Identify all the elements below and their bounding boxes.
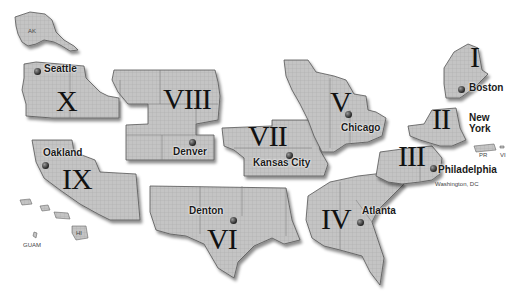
alaska-label: AK	[28, 28, 36, 34]
oakland-marker-icon[interactable]	[42, 162, 49, 169]
alaska-shape[interactable]	[15, 12, 78, 51]
boston-marker-icon[interactable]	[458, 86, 465, 93]
city-label-new-york[interactable]: New York	[469, 113, 491, 134]
seattle-marker-icon[interactable]	[34, 68, 41, 75]
city-label-denver[interactable]: Denver	[173, 147, 207, 158]
virgin-islands-shape[interactable]	[500, 146, 504, 148]
region-numeral-vii: VII	[248, 121, 287, 151]
atlanta-marker-icon[interactable]	[357, 219, 364, 226]
city-label-seattle[interactable]: Seattle	[44, 64, 77, 75]
city-label-denton[interactable]: Denton	[189, 206, 223, 217]
city-label-philadelphia[interactable]: Philadelphia	[438, 165, 497, 176]
region-numeral-vi: VI	[207, 224, 237, 254]
washington-dc-label: Washington, DC	[435, 181, 478, 187]
region-numeral-viii: VIII	[163, 84, 211, 114]
region-numeral-x: X	[56, 86, 77, 116]
region-numeral-ii: II	[432, 104, 450, 134]
hawaii-label: HI	[76, 230, 82, 236]
city-label-chicago[interactable]: Chicago	[341, 123, 380, 134]
city-label-atlanta[interactable]: Atlanta	[362, 206, 396, 217]
new-york-line-2: York	[469, 123, 491, 134]
region-numeral-iv: IV	[321, 204, 351, 234]
guam-label: GUAM	[23, 242, 41, 248]
virgin-islands-label: VI	[500, 152, 506, 158]
philadelphia-marker-icon[interactable]	[430, 165, 437, 172]
city-label-kansas-city[interactable]: Kansas City	[253, 158, 310, 169]
puerto-rico-label: PR	[479, 152, 487, 158]
guam-shape[interactable]	[33, 232, 37, 238]
city-label-boston[interactable]: Boston	[469, 83, 503, 94]
chicago-marker-icon[interactable]	[345, 111, 352, 118]
city-label-oakland[interactable]: Oakland	[43, 148, 82, 159]
region-numeral-iii: III	[398, 141, 425, 171]
region-numeral-ix: IX	[62, 164, 92, 194]
region-numeral-i: I	[470, 42, 479, 72]
puerto-rico-shape[interactable]	[474, 144, 496, 152]
new-york-line-1: New	[469, 112, 490, 123]
denver-marker-icon[interactable]	[189, 139, 196, 146]
